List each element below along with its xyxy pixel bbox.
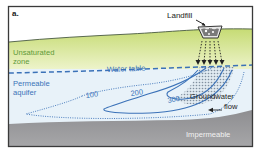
unsaturated-zone-label: Unsaturated	[13, 48, 54, 57]
water-table-label: Water table	[107, 64, 146, 74]
groundwater-flow-label-2: flow	[224, 102, 238, 111]
permeable-aquifer-label: Permeable	[13, 79, 50, 88]
panel-label: a.	[12, 9, 19, 18]
groundwater-flow-label: Groundwater	[190, 92, 234, 101]
groundwater-contamination-diagram: a. Landfill Unsaturated zone Water table…	[0, 0, 259, 151]
contour-label-100: 100	[85, 89, 98, 100]
contour-label-200: 200	[130, 87, 143, 98]
impermeable-label: Impermeable	[186, 130, 230, 139]
unsaturated-zone-label-2: zone	[13, 57, 29, 66]
permeable-aquifer-label-2: aquifer	[13, 88, 37, 97]
landfill-label: Landfill	[167, 11, 193, 20]
